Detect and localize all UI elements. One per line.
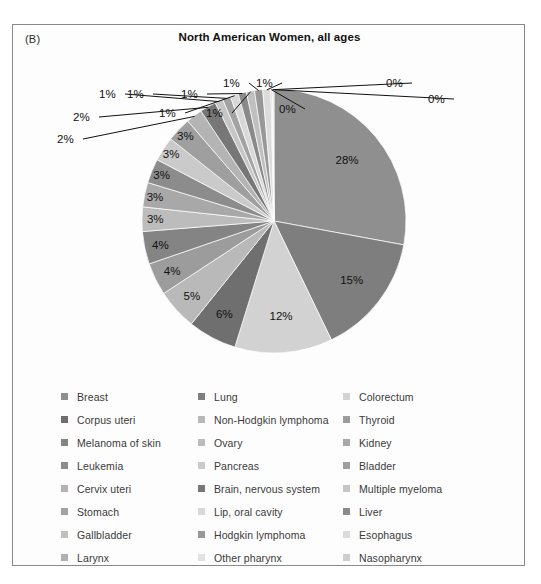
pie-slice-label: 4% <box>164 265 181 277</box>
pie-slice-label: 1% <box>206 107 223 119</box>
pie-slice-label: 1% <box>99 88 116 100</box>
pie-slice-label: 28% <box>335 154 358 166</box>
legend-swatch-icon <box>198 462 205 469</box>
legend-item-label: Larynx <box>77 552 109 564</box>
legend-item-label: Ovary <box>214 437 243 449</box>
legend-item-label: Hodgkin lymphoma <box>214 529 305 541</box>
legend-item-label: Breast <box>77 391 108 403</box>
legend-swatch-icon <box>61 508 68 515</box>
legend-swatch-icon <box>343 554 350 561</box>
pie-slice-label: 3% <box>147 213 164 225</box>
legend-swatch-icon <box>343 462 350 469</box>
legend-item-label: Kidney <box>359 437 392 449</box>
legend-item-label: Thyroid <box>359 414 395 426</box>
legend-item: Lip, oral cavity <box>198 500 346 523</box>
pie-slice-label: 2% <box>73 111 90 123</box>
legend-swatch-icon <box>61 462 68 469</box>
legend-swatch-icon <box>198 554 205 561</box>
legend-item: Multiple myeloma <box>343 477 493 500</box>
legend-item: Breast <box>61 385 201 408</box>
pie-slice-label: 5% <box>184 290 201 302</box>
legend-item-label: Cervix uteri <box>77 483 131 495</box>
pie-slice-label: 1% <box>223 77 240 89</box>
chart-legend: BreastCorpus uteriMelanoma of skinLeukem… <box>13 385 526 563</box>
pie-slice-label: 1% <box>181 88 198 100</box>
legend-column-1: BreastCorpus uteriMelanoma of skinLeukem… <box>61 385 201 569</box>
legend-item-label: Melanoma of skin <box>77 437 161 449</box>
legend-item: Melanoma of skin <box>61 431 201 454</box>
pie-slice-label: 1% <box>159 107 176 119</box>
legend-item-label: Lip, oral cavity <box>214 506 283 518</box>
legend-item: Lung <box>198 385 346 408</box>
legend-item-label: Other pharynx <box>214 552 282 564</box>
legend-swatch-icon <box>198 416 205 423</box>
pie-slice-label: 4% <box>152 239 169 251</box>
legend-column-3: ColorectumThyroidKidneyBladderMultiple m… <box>343 385 493 569</box>
pie-slice-label: 0% <box>428 93 445 105</box>
legend-item: Larynx <box>61 546 201 569</box>
legend-item: Gallbladder <box>61 523 201 546</box>
pie-slice-label: 1% <box>127 88 144 100</box>
legend-swatch-icon <box>61 416 68 423</box>
legend-item: Liver <box>343 500 493 523</box>
legend-item: Corpus uteri <box>61 408 201 431</box>
legend-item-label: Esophagus <box>359 529 412 541</box>
legend-item-label: Corpus uteri <box>77 414 135 426</box>
legend-swatch-icon <box>198 485 205 492</box>
legend-item: Pancreas <box>198 454 346 477</box>
legend-item: Leukemia <box>61 454 201 477</box>
legend-item-label: Colorectum <box>359 391 414 403</box>
legend-swatch-icon <box>61 531 68 538</box>
legend-swatch-icon <box>61 393 68 400</box>
pie-slice-label: 2% <box>57 133 74 145</box>
legend-item: Brain, nervous system <box>198 477 346 500</box>
legend-swatch-icon <box>343 508 350 515</box>
legend-item: Stomach <box>61 500 201 523</box>
legend-item-label: Nasopharynx <box>359 552 422 564</box>
legend-swatch-icon <box>198 508 205 515</box>
pie-slice-label: 3% <box>153 169 170 181</box>
legend-swatch-icon <box>61 554 68 561</box>
pie-slice-label: 1% <box>256 77 273 89</box>
legend-item: Nasopharynx <box>343 546 493 569</box>
pie-slice-label: 15% <box>340 274 363 286</box>
legend-item-label: Leukemia <box>77 460 123 472</box>
legend-swatch-icon <box>61 485 68 492</box>
legend-swatch-icon <box>343 531 350 538</box>
legend-item-label: Brain, nervous system <box>214 483 320 495</box>
legend-swatch-icon <box>61 439 68 446</box>
legend-item-label: Stomach <box>77 506 119 518</box>
pie-chart-plot-area: 28%15%12%6%5%4%4%3%3%3%3%3%2%2%1%1%1%1%1… <box>13 25 526 377</box>
legend-item: Esophagus <box>343 523 493 546</box>
legend-item: Hodgkin lymphoma <box>198 523 346 546</box>
leader-line <box>207 94 243 95</box>
pie-slice-label: 3% <box>177 130 194 142</box>
pie-chart-svg: 28%15%12%6%5%4%4%3%3%3%3%3%2%2%1%1%1%1%1… <box>13 25 526 377</box>
legend-item-label: Liver <box>359 506 382 518</box>
legend-item: Colorectum <box>343 385 493 408</box>
legend-swatch-icon <box>343 416 350 423</box>
pie-slice-label: 3% <box>163 148 180 160</box>
legend-swatch-icon <box>198 393 205 400</box>
pie-slice-label: 0% <box>279 103 296 115</box>
pie-slice-label: 6% <box>216 308 233 320</box>
legend-item-label: Lung <box>214 391 238 403</box>
legend-item: Other pharynx <box>198 546 346 569</box>
pie-slice-label: 12% <box>270 310 293 322</box>
legend-item: Non-Hodgkin lymphoma <box>198 408 346 431</box>
legend-swatch-icon <box>343 439 350 446</box>
legend-swatch-icon <box>198 439 205 446</box>
figure-panel: (B) North American Women, all ages 28%15… <box>12 24 525 566</box>
legend-item: Ovary <box>198 431 346 454</box>
legend-item: Bladder <box>343 454 493 477</box>
legend-column-2: LungNon-Hodgkin lymphomaOvaryPancreasBra… <box>198 385 346 569</box>
leader-line <box>99 107 208 117</box>
pie-slice-label: 0% <box>386 77 403 89</box>
legend-swatch-icon <box>343 393 350 400</box>
legend-item: Cervix uteri <box>61 477 201 500</box>
legend-swatch-icon <box>343 485 350 492</box>
legend-item-label: Multiple myeloma <box>359 483 442 495</box>
legend-item-label: Non-Hodgkin lymphoma <box>214 414 329 426</box>
legend-swatch-icon <box>198 531 205 538</box>
legend-item-label: Pancreas <box>214 460 259 472</box>
